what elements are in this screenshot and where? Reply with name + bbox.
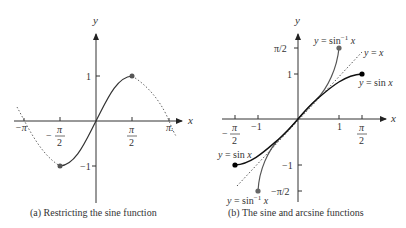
- endpoint-min: [58, 164, 63, 169]
- tick-neg-half-pi-num: π: [232, 122, 238, 133]
- tick-half-pi-num: π: [129, 124, 135, 135]
- label-arcsine-bottom: y = sin−1 x: [226, 194, 269, 206]
- y-axis-label: y: [294, 14, 300, 26]
- tick-neg-half-pi-minus: −: [46, 130, 52, 141]
- arcsine-endpoint-top: [336, 45, 341, 50]
- arcsine-endpoint-bottom: [255, 188, 260, 193]
- tick-pi: π.: [166, 122, 174, 133]
- tick-half-pi-num: π: [359, 122, 365, 133]
- y-axis-label: y: [92, 14, 98, 26]
- tick-neg-half-pi-num: π: [57, 124, 63, 135]
- tick-y-neg-one: −1: [282, 160, 293, 171]
- tick-half-pi-den: 2: [359, 135, 364, 146]
- label-sine-left: y = sin x: [217, 149, 252, 160]
- tick-neg-half-pi-den: 2: [57, 137, 62, 148]
- caption-b: (b) The sine and arcsine functions: [228, 207, 364, 219]
- chart-a: y x −π − π 2 π 2 π. 1 −1 (a) Restricting…: [14, 14, 193, 219]
- tick-neg-half-pi-den: 2: [232, 135, 237, 146]
- caption-a: (a) Restricting the sine function: [30, 207, 157, 219]
- sine-endpoint-left: [232, 162, 237, 167]
- x-axis-label: x: [390, 112, 396, 124]
- tick-y-half-pi: π/2: [274, 43, 287, 54]
- tick-y-neg-one: −1: [80, 161, 91, 172]
- tick-y-one: 1: [86, 71, 91, 82]
- tick-neg-one: −1: [251, 121, 262, 132]
- sine-endpoint-right: [359, 71, 364, 76]
- tick-one: 1: [337, 121, 342, 132]
- tick-y-neg-half-pi: −π/2: [271, 186, 289, 197]
- sine-dotted-left: [17, 107, 60, 166]
- figure: y x −π − π 2 π 2 π. 1 −1 (a) Restricting…: [0, 0, 406, 228]
- label-identity: y = x: [363, 47, 384, 58]
- x-axis-label: x: [187, 114, 193, 126]
- tick-y-one: 1: [287, 69, 292, 80]
- label-sine-right: y = sin x: [358, 77, 393, 88]
- tick-neg-half-pi-minus: −: [222, 128, 228, 139]
- endpoint-max: [130, 74, 135, 79]
- label-arcsine-top: yy = sin = sin−1 x: [313, 34, 356, 46]
- chart-b: y x − π 2 −1 1 π 2 π/2 1 −1 −π/2: [217, 14, 396, 219]
- tick-half-pi-den: 2: [129, 137, 134, 148]
